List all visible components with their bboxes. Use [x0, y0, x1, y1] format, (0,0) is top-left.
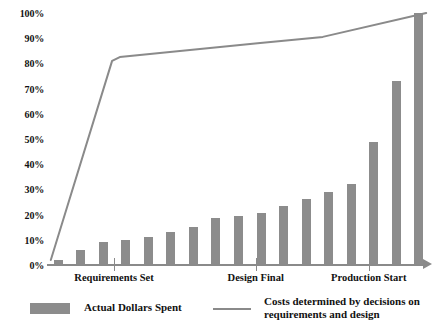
bar	[76, 250, 85, 265]
bar	[166, 232, 175, 265]
y-axis-tick-label: 70%	[4, 83, 44, 94]
bar	[99, 242, 108, 265]
chart-legend: Actual Dollars Spent Costs determined by…	[0, 297, 440, 330]
y-axis-labels: 0%10%20%30%40%50%60%70%80%90%100%	[0, 0, 44, 330]
y-axis-tick-label: 50%	[4, 134, 44, 145]
bar-series	[47, 13, 430, 265]
bar	[121, 240, 130, 265]
y-axis-tick-label: 30%	[4, 184, 44, 195]
bar	[234, 216, 243, 265]
bar	[257, 213, 266, 265]
x-axis-milestone-label: Production Start	[331, 272, 406, 283]
legend-line-label: Costs determined by decisions on require…	[264, 295, 439, 321]
bar	[211, 218, 220, 265]
legend-line-label-row2: requirements and design	[264, 308, 439, 321]
x-axis-arrow-icon	[423, 259, 432, 269]
y-axis-tick-label: 100%	[4, 8, 44, 19]
x-axis-tick	[114, 258, 115, 271]
x-axis-tick	[256, 258, 257, 271]
y-axis-tick-label: 20%	[4, 209, 44, 220]
y-axis-tick-label: 0%	[4, 260, 44, 271]
bar	[189, 227, 198, 265]
bar	[144, 237, 153, 265]
legend-line-swatch	[213, 308, 251, 310]
x-axis-milestone-label: Requirements Set	[74, 272, 153, 283]
y-axis-tick-label: 10%	[4, 234, 44, 245]
y-axis-tick-label: 80%	[4, 58, 44, 69]
y-axis-tick-label: 40%	[4, 159, 44, 170]
bar	[324, 192, 333, 265]
legend-line-label-row1: Costs determined by decisions on	[264, 295, 439, 308]
y-axis-tick-label: 90%	[4, 33, 44, 44]
y-axis-tick-label: 60%	[4, 108, 44, 119]
plot-area	[47, 13, 430, 265]
legend-bar-swatch	[30, 303, 70, 314]
bar	[302, 199, 311, 265]
x-axis-milestone-label: Design Final	[228, 272, 284, 283]
bar	[347, 184, 356, 265]
x-axis-tick	[369, 258, 370, 271]
bar	[414, 13, 423, 265]
bar	[369, 142, 378, 265]
legend-bar-label: Actual Dollars Spent	[84, 301, 182, 313]
bar	[392, 81, 401, 265]
bar	[279, 206, 288, 265]
cost-commitment-chart: 0%10%20%30%40%50%60%70%80%90%100% Requir…	[0, 0, 440, 330]
